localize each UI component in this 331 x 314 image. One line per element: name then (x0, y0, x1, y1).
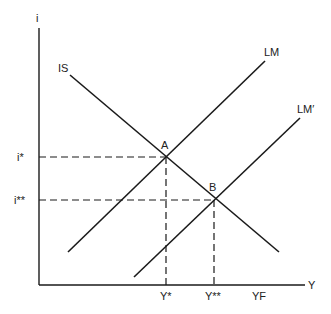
lm-prime-curve (134, 118, 300, 277)
x-axis-label: Y (308, 279, 316, 291)
point-a-label: A (161, 139, 169, 151)
lm-prime-label: LM′ (297, 103, 314, 115)
i-star-label: i* (17, 151, 24, 163)
y-star-label: Y* (160, 290, 172, 302)
yf-label: YF (252, 290, 266, 302)
point-b-label: B (209, 181, 216, 193)
is-label: IS (58, 62, 68, 74)
y-axis-label: i (36, 12, 38, 24)
is-lm-diagram: i Y IS LM LM′ A B i* i** Y* Y** YF (0, 0, 331, 314)
lm-label: LM (264, 46, 279, 58)
i-double-star-label: i** (14, 194, 26, 206)
is-curve (70, 75, 279, 252)
y-double-star-label: Y** (205, 290, 222, 302)
